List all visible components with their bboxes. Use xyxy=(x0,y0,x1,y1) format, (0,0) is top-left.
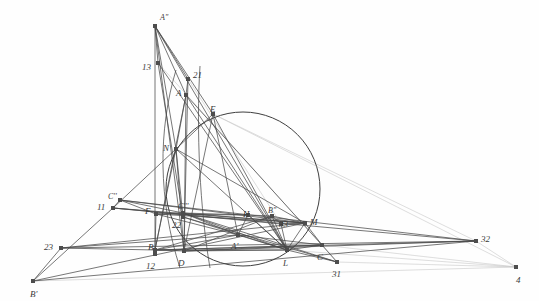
node-D xyxy=(182,249,186,253)
node-A2 xyxy=(153,24,157,28)
node-C2 xyxy=(118,198,122,202)
segment-n31-n4 xyxy=(337,262,516,267)
label-n23: 23 xyxy=(44,243,53,252)
label-n32: 32 xyxy=(481,235,490,244)
label-C3: C''' xyxy=(178,203,188,211)
node-A1 xyxy=(236,233,240,237)
label-N: N xyxy=(163,144,169,153)
label-B: B xyxy=(148,243,154,252)
label-n13: 13 xyxy=(142,63,151,72)
label-n33: 33 xyxy=(279,220,288,229)
label-n4: 4 xyxy=(516,276,521,285)
label-n31: 31 xyxy=(332,270,341,279)
circle-layer xyxy=(166,112,320,266)
label-L: L xyxy=(283,259,288,268)
faint-line-layer xyxy=(33,63,516,281)
label-n11: 11 xyxy=(97,203,105,212)
main-circle xyxy=(166,112,320,266)
label-B2: B'' xyxy=(268,207,276,215)
label-H: H xyxy=(243,210,250,219)
geometry-figure: A''1321AENC''11FC'''22HB''33MA'B12DLC312… xyxy=(0,0,539,301)
strong-line-layer xyxy=(33,26,476,281)
node-L xyxy=(285,248,289,252)
node-N xyxy=(174,147,178,151)
node-n21 xyxy=(186,77,190,81)
segment-B1-n4 xyxy=(33,267,516,281)
label-C2: C'' xyxy=(108,193,117,201)
label-B1: B' xyxy=(30,290,37,299)
node-n4 xyxy=(514,265,518,269)
segment-M-B1 xyxy=(33,223,305,281)
label-A: A xyxy=(176,89,182,98)
segment-B-n23 xyxy=(61,248,155,250)
node-C xyxy=(320,243,324,247)
node-n12 xyxy=(153,252,157,256)
segment-D-n32 xyxy=(184,241,476,251)
label-A1: A' xyxy=(231,242,238,251)
node-n23 xyxy=(59,246,63,250)
label-D: D xyxy=(178,259,185,268)
node-n11 xyxy=(111,206,115,210)
node-A xyxy=(184,93,188,97)
label-M: M xyxy=(310,218,318,227)
node-n22 xyxy=(181,215,185,219)
label-n12: 12 xyxy=(146,262,155,271)
node-F xyxy=(154,212,158,216)
label-F: F xyxy=(145,207,151,216)
node-n31 xyxy=(335,260,339,264)
segment-N-M xyxy=(176,149,305,223)
label-n22: 22 xyxy=(172,221,181,230)
node-n32 xyxy=(474,239,478,243)
geometry-canvas xyxy=(0,0,539,301)
segment-n11-n32 xyxy=(113,208,476,241)
node-C3 xyxy=(181,211,185,215)
node-M xyxy=(303,221,307,225)
label-n21: 21 xyxy=(193,71,202,80)
node-n13 xyxy=(156,61,160,65)
label-E: E xyxy=(210,105,216,114)
label-C: C xyxy=(317,253,323,262)
label-A2: A'' xyxy=(160,14,168,22)
node-B1 xyxy=(31,279,35,283)
